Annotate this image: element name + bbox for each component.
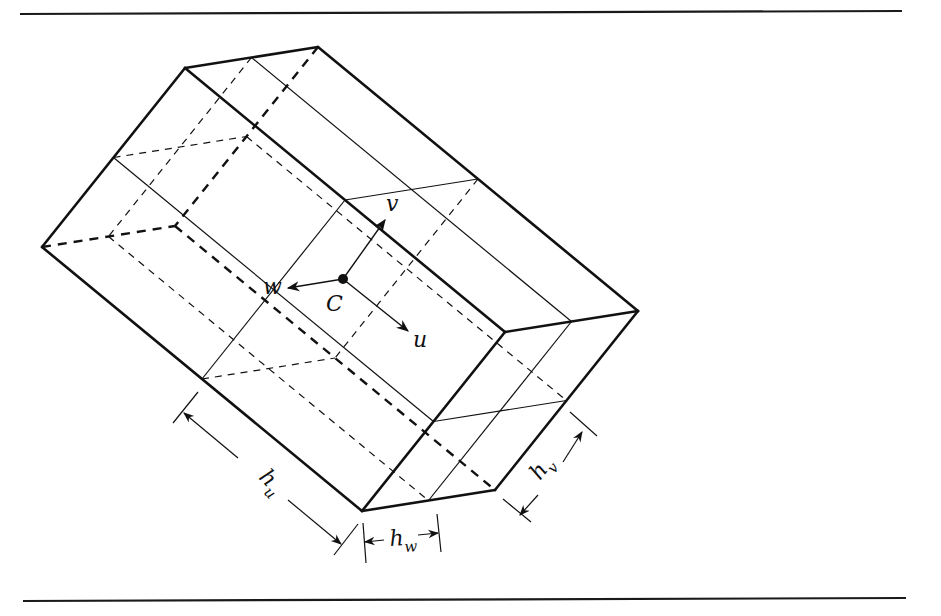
hu-extension-end xyxy=(334,524,358,555)
hv-arrow-start xyxy=(563,432,582,462)
hu-arrow-start xyxy=(184,413,238,458)
dimension-label-hu: hu xyxy=(250,464,289,503)
axis-label-v: v xyxy=(386,191,399,216)
mid-section-right xyxy=(335,179,478,358)
mid-section-bottom xyxy=(202,358,335,379)
hv-arrow-end xyxy=(520,495,538,515)
volume-element-diagram: C u v w hu hv hw xyxy=(0,0,941,616)
center-label: C xyxy=(326,291,343,316)
dimension-label-hv: hv xyxy=(524,450,563,487)
dimension-label-hw: hw xyxy=(389,524,418,557)
hv-extension-end xyxy=(503,499,531,522)
bottom-rule xyxy=(23,598,906,601)
axis-label-w: w xyxy=(263,274,282,299)
back-face-midline-h xyxy=(114,137,247,158)
hw-extension-start xyxy=(363,523,366,563)
svg-text:hw: hw xyxy=(389,524,418,557)
hu-arrow-end xyxy=(288,500,341,544)
hu-extension-start xyxy=(173,392,198,423)
far-face-midline xyxy=(247,137,567,401)
top-rule xyxy=(20,11,902,14)
svg-text:hu: hu xyxy=(250,464,289,503)
top-face-midline xyxy=(252,58,572,322)
axis-arrow-w xyxy=(288,279,343,288)
dimension-markers xyxy=(173,392,597,563)
hw-arrow-end xyxy=(418,533,438,535)
axis-arrow-u xyxy=(343,279,408,331)
hw-arrow-start xyxy=(365,540,384,542)
hv-extension-start xyxy=(570,412,597,436)
axis-label-u: u xyxy=(413,327,427,352)
svg-text:hv: hv xyxy=(524,450,563,487)
axis-arrow-v xyxy=(343,220,385,279)
